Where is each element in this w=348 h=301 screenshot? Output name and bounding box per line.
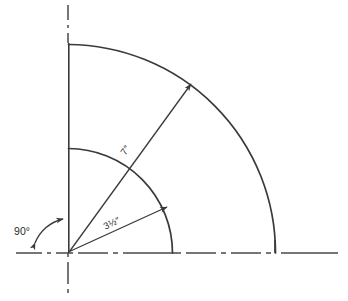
inner-arc bbox=[69, 149, 173, 254]
quadrant-edges-group bbox=[69, 43, 275, 253]
angle-dimension-group: 90° bbox=[14, 219, 63, 243]
outer-arc bbox=[69, 45, 276, 254]
arcs-group bbox=[69, 45, 276, 254]
outer-radius-label: 7″ bbox=[118, 143, 132, 157]
outer-radius-leader bbox=[70, 84, 192, 252]
inner-radius-leader bbox=[70, 207, 168, 252]
centerlines-group bbox=[16, 5, 338, 296]
diagram-canvas: 7″ 3½″ 90° bbox=[0, 0, 348, 301]
dimension-leaders-group bbox=[70, 84, 192, 252]
radius-diagram: 7″ 3½″ 90° bbox=[0, 0, 348, 301]
angle-label-90: 90° bbox=[14, 225, 30, 237]
angle-arc-90 bbox=[35, 219, 63, 243]
